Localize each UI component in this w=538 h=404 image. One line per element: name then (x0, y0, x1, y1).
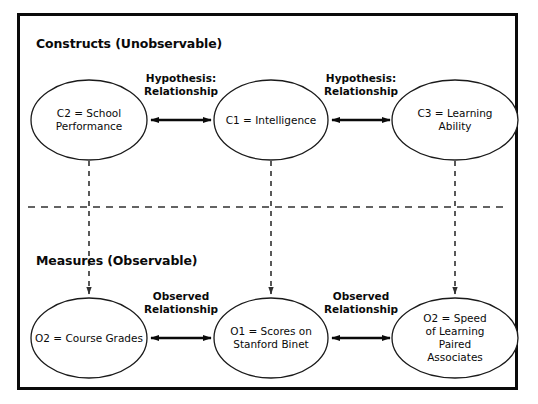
section-title-measures: Measures (Observable) (36, 253, 197, 268)
diagram-canvas: Constructs (Unobservable) Measures (Obse… (0, 0, 538, 404)
edge-label-observed-right: Observed Relationship (324, 290, 398, 316)
edge-label-observed-left: Observed Relationship (144, 290, 218, 316)
section-title-constructs: Constructs (Unobservable) (36, 36, 222, 51)
edge-label-hypothesis-right: Hypothesis: Relationship (324, 72, 398, 98)
edge-label-hypothesis-left: Hypothesis: Relationship (144, 72, 218, 98)
diagram-frame-border (17, 13, 518, 390)
